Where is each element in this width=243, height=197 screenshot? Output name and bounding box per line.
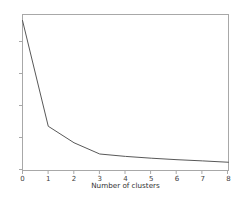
x-axis-label: Number of clusters [91, 181, 160, 190]
axes-frame [23, 15, 229, 171]
x-tick-label: 1 [46, 175, 50, 183]
x-tick-label: 7 [201, 175, 205, 183]
elbow-plot: 012345678 Number of clusters [0, 0, 243, 197]
x-tick-label: 0 [20, 175, 24, 183]
x-tick-label: 2 [72, 175, 76, 183]
x-tick-label: 6 [175, 175, 180, 183]
figure-container: 012345678 Number of clusters [0, 0, 243, 197]
x-tick-label: 8 [226, 175, 230, 183]
